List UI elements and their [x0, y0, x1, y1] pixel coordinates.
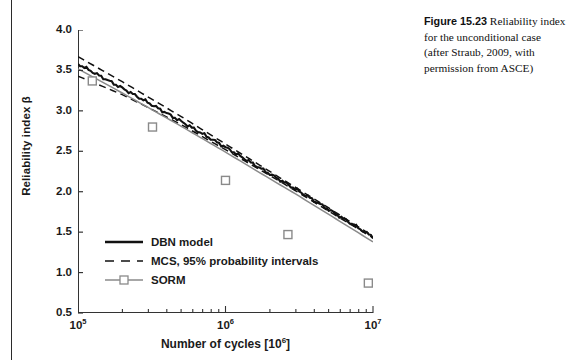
legend-swatch	[104, 254, 144, 268]
series-line-mcs-lower	[78, 76, 373, 238]
y-tick-label: 2.5	[42, 145, 72, 157]
y-tick-label: 1.5	[42, 226, 72, 238]
x-tick-label: 106	[217, 317, 234, 331]
y-axis-tick-labels: 4.03.53.02.52.01.51.00.5	[40, 30, 72, 313]
x-tick-label: 107	[365, 317, 382, 331]
series-marker-sorm	[149, 123, 157, 131]
x-tick-label: 105	[70, 317, 87, 331]
y-tick-label: 1.0	[42, 267, 72, 279]
figure-caption: Figure 15.23 Reliability index for the u…	[424, 14, 566, 76]
legend-swatch	[104, 273, 144, 287]
series-marker-sorm	[88, 77, 96, 85]
y-tick-label: 0.5	[42, 307, 72, 319]
figure-caption-label: Figure 15.23	[424, 15, 487, 27]
y-tick-label: 4.0	[42, 24, 72, 36]
chart-legend: DBN modelMCS, 95% probability intervalsS…	[104, 232, 334, 289]
series-marker-sorm	[222, 176, 230, 184]
series-line-dbn	[78, 64, 373, 239]
x-axis-title: Number of cycles [106]	[78, 336, 373, 351]
legend-label: SORM	[151, 274, 186, 286]
y-tick-label: 2.0	[42, 186, 72, 198]
series-marker-sorm	[364, 279, 372, 287]
legend-item: DBN model	[104, 232, 334, 251]
y-tick-label: 3.0	[42, 105, 72, 117]
legend-item: MCS, 95% probability intervals	[104, 251, 334, 270]
legend-label: DBN model	[151, 236, 213, 248]
figure-chart: Reliability index β 4.03.53.02.52.01.51.…	[0, 0, 400, 360]
y-tick-label: 3.5	[42, 64, 72, 76]
y-axis-title: Reliability index β	[20, 66, 32, 226]
legend-swatch	[104, 235, 144, 249]
x-axis-tick-labels: 105106107	[78, 317, 373, 335]
legend-label: MCS, 95% probability intervals	[151, 255, 318, 267]
legend-item: SORM	[104, 270, 334, 289]
